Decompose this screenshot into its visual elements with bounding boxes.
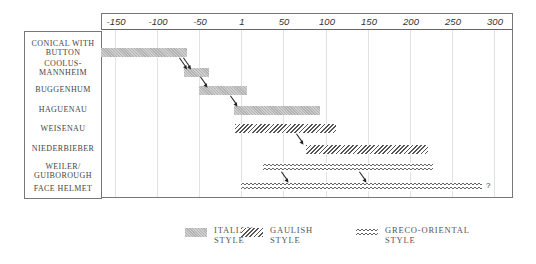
- row-label-weiler: WEILER/GUIBOROUGH: [25, 162, 101, 180]
- tick-label: 1: [239, 16, 244, 27]
- tick-label: 100: [319, 16, 335, 27]
- row-label-haguenau: HAGUENAU: [25, 105, 101, 114]
- row-labels-panel: CONICAL WITHBUTTON COOLUS-MANNHEIM BUGGE…: [24, 31, 102, 199]
- tick-label: -100: [148, 16, 167, 27]
- row-label-buggenhum: BUGGENHUM: [25, 85, 101, 94]
- tick-label: 150: [361, 16, 377, 27]
- bar-weisenau: [235, 124, 336, 133]
- x-axis-header: -150 -100 -50 1 50 100 150 200 250 300: [101, 13, 513, 30]
- legend-greco-oriental: GRECO-ORIENTAL STYLE: [356, 226, 470, 245]
- tick-label: 200: [403, 16, 419, 27]
- plot-area: ?: [101, 30, 513, 198]
- bar-weiler-guiborough: [263, 163, 433, 172]
- gaulish-pattern-swatch: [241, 228, 263, 237]
- arrow-icon: [296, 133, 303, 142]
- arrow-icon: [200, 76, 207, 85]
- legend-gaulish: GAULISH STYLE: [241, 226, 313, 245]
- bar-face-helmet: [241, 182, 482, 191]
- tick-label: -50: [193, 16, 207, 27]
- gridline: [494, 30, 495, 197]
- tick-label: -150: [106, 16, 125, 27]
- gridline: [452, 30, 453, 197]
- arrow-icon: [230, 95, 237, 104]
- row-label-weisenau: WEISENAU: [25, 124, 101, 133]
- greco-oriental-pattern-swatch: [356, 228, 378, 237]
- tick-label: 250: [445, 16, 461, 27]
- arrow-icon: [359, 171, 366, 180]
- row-label-face-helmet: FACE HELMET: [25, 184, 101, 193]
- arrow-icon: [281, 171, 288, 180]
- row-label-coolus: COOLUS-MANNHEIM: [25, 59, 101, 77]
- bar-conical-with-button: [101, 48, 187, 57]
- row-label-conical: CONICAL WITHBUTTON: [25, 39, 101, 57]
- uncertain-end-marker: ?: [486, 181, 490, 190]
- row-label-niederbieber: NIEDERBIEBER: [25, 144, 101, 153]
- bar-niederbieber: [306, 145, 428, 154]
- tick-label: 300: [487, 16, 503, 27]
- italian-pattern-swatch: [185, 228, 207, 237]
- tick-label: 50: [279, 16, 290, 27]
- gridline: [199, 30, 200, 197]
- bar-haguenau: [234, 106, 320, 115]
